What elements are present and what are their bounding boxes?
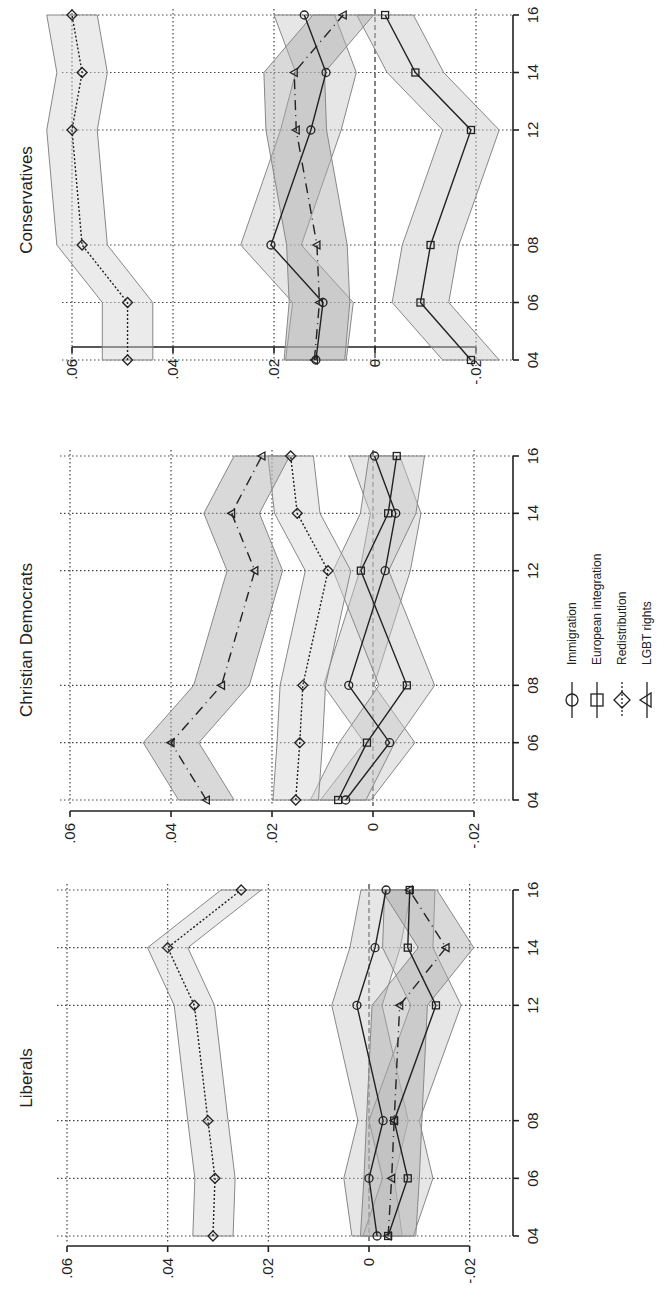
value-tick-label: .04 <box>162 823 179 844</box>
triangle-marker-icon <box>640 693 651 707</box>
legend-label-redistribution: Redistribution <box>615 592 629 665</box>
year-tick-label: 12 <box>524 997 541 1014</box>
year-tick-label: 04 <box>524 792 541 809</box>
year-tick-label: 16 <box>524 448 541 465</box>
value-tick-label: .02 <box>265 359 282 380</box>
year-tick-label: 08 <box>524 237 541 254</box>
year-tick-label: 12 <box>524 562 541 579</box>
year-tick-label: 16 <box>524 882 541 899</box>
value-tick-label: .06 <box>61 823 78 844</box>
value-tick-label: .04 <box>159 1258 176 1279</box>
legend-item-lgbt-rights: LGBT rights <box>640 601 654 718</box>
legend-label-immigration: Immigration <box>565 602 579 665</box>
ci-band-lgbt-rights <box>143 456 289 800</box>
ci-band-european-integration <box>357 15 499 360</box>
value-tick-label: .02 <box>263 823 280 844</box>
value-tick-label: .04 <box>164 359 181 380</box>
value-tick-label: .02 <box>259 1258 276 1279</box>
year-tick-label: 06 <box>524 294 541 311</box>
legend-item-redistribution: Redistribution <box>614 592 630 718</box>
value-tick-label: -.02 <box>461 1258 478 1284</box>
panel-title-christian-democrats: Christian Democrats <box>17 563 36 717</box>
year-tick-label: 14 <box>524 64 541 81</box>
value-tick-label: .06 <box>58 1258 75 1279</box>
panel-christian-democrats: .06.04.020-.02040608121416 <box>60 448 541 849</box>
value-tick-label: .06 <box>63 359 80 380</box>
year-tick-label: 08 <box>524 1112 541 1129</box>
value-tick-label: 0 <box>366 359 383 367</box>
year-tick-label: 12 <box>524 122 541 139</box>
panel-conservatives: .06.04.020-.02040608121416 <box>47 7 541 385</box>
year-tick-label: 16 <box>524 7 541 24</box>
legend: Immigration European integration Redistr… <box>565 554 654 718</box>
year-tick-label: 08 <box>524 677 541 694</box>
value-tick-label: 0 <box>364 823 381 831</box>
year-tick-label: 06 <box>524 1170 541 1187</box>
legend-label-lgbt-rights: LGBT rights <box>640 601 654 665</box>
legend-label-european-integration: European integration <box>590 554 604 665</box>
value-tick-label: 0 <box>360 1258 377 1266</box>
panel-liberals: .06.04.020-.02040608121416 <box>57 882 541 1284</box>
legend-item-european-integration: European integration <box>590 554 604 718</box>
panel-title-liberals: Liberals <box>17 1048 36 1108</box>
ci-band-redistribution <box>148 890 262 1236</box>
year-tick-label: 06 <box>524 734 541 751</box>
year-tick-label: 14 <box>524 939 541 956</box>
year-tick-label: 14 <box>524 505 541 522</box>
rotated-line-chart: .06.04.020-.02040608121416 .06.04.020-.0… <box>0 0 667 1298</box>
ci-band-redistribution <box>47 15 153 360</box>
year-tick-label: 04 <box>524 352 541 369</box>
year-tick-label: 04 <box>524 1228 541 1245</box>
value-tick-label: -.02 <box>465 823 482 849</box>
legend-item-immigration: Immigration <box>565 602 579 718</box>
panel-title-conservatives: Conservatives <box>17 146 36 254</box>
